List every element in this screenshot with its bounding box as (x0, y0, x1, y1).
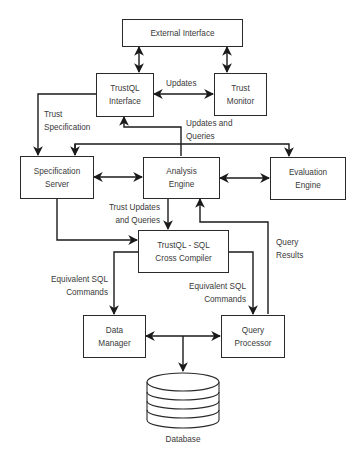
edge-label-line1: Trust Updates (98, 201, 160, 214)
edge-label-updates-and-queries: Updates and Queries (186, 117, 232, 143)
node-label-line1: Trust (227, 82, 254, 95)
node-label-line2: Manager (98, 337, 130, 350)
edge-updates-and-queries (124, 117, 181, 156)
node-label-line2: Monitor (227, 95, 254, 108)
database-icon (147, 373, 219, 428)
node-label-line2: Processor (235, 337, 272, 350)
node-cross-compiler: TrustQL - SQLCross Compiler (138, 230, 229, 273)
node-trust-monitor: TrustMonitor (214, 73, 267, 116)
edge-label-equivalent-sql-left: Equivalent SQL Commands (38, 273, 108, 299)
edge-label-line1: Query (276, 236, 303, 249)
node-label-line1: Specification (34, 165, 80, 178)
node-label-line2: Engine (289, 179, 327, 192)
node-specification-server: SpecificationServer (20, 156, 94, 199)
node-label-line2: Server (34, 178, 80, 191)
node-external-interface: External Interface (122, 19, 243, 47)
edge-label-line2: Queries (186, 130, 232, 143)
edge-label-updates: Updates (166, 77, 197, 90)
node-label-line1: Query (235, 324, 272, 337)
edge-label-line1: Equivalent SQL (38, 273, 108, 286)
edge-label-line1: Trust (44, 108, 90, 121)
node-query-processor: QueryProcessor (221, 315, 285, 358)
node-data-manager: DataManager (83, 315, 146, 358)
trustql-architecture-diagram: External Interface TrustQLInterface Trus… (0, 0, 364, 460)
edge-label-trust-specification: Trust Specification (44, 108, 90, 134)
node-label-line1: Evaluation (289, 166, 327, 179)
edge-label-line2: Commands (176, 293, 246, 306)
edge-label-query-results: Query Results (276, 236, 303, 262)
edge-compiler-datamanager (114, 252, 138, 314)
node-label-line2: Interface (109, 95, 141, 108)
node-label-line1: Data (98, 324, 130, 337)
node-analysis-engine: AnalysisEngine (143, 157, 220, 199)
node-label-line1: Analysis (166, 165, 197, 178)
node-label-line2: Cross Compiler (155, 252, 211, 265)
node-label-line1: TrustQL - SQL (155, 239, 211, 252)
edge-label-line1: Updates and (186, 117, 232, 130)
edge-label-equivalent-sql-right: Equivalent SQL Commands (176, 280, 246, 306)
edge-bus-evaluation (75, 144, 289, 156)
node-label-line2: Engine (166, 178, 197, 191)
database-label: Database (150, 433, 216, 446)
node-label-line1: TrustQL (109, 82, 141, 95)
node-trustql-interface: TrustQLInterface (96, 73, 154, 117)
node-evaluation-engine: EvaluationEngine (270, 157, 346, 200)
edge-label-line2: Specification (44, 121, 90, 134)
edge-label-line2: Commands (38, 286, 108, 299)
edge-label-trust-updates-and-queries: Trust Updates and Queries (98, 201, 160, 227)
node-label: External Interface (150, 27, 214, 40)
edge-label-line2: and Queries (98, 214, 160, 227)
edge-label-line1: Equivalent SQL (176, 280, 246, 293)
edge-label-line2: Results (276, 249, 303, 262)
